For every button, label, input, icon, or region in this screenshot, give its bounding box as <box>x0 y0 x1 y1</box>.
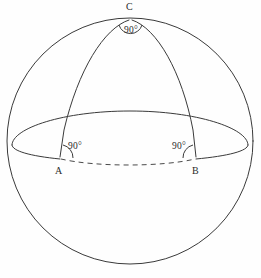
equator-front-dashed-arc-AB <box>61 159 195 165</box>
equator-back-arc <box>12 111 248 145</box>
angle-label-b: 90° <box>172 142 186 152</box>
vertex-label-a: A <box>55 166 62 176</box>
angle-label-c: 90° <box>124 26 138 36</box>
meridian-arc-CA <box>60 20 129 157</box>
spherical-triangle-figure: C A B 90° 90° 90° <box>0 0 261 278</box>
equator-front-left-segment <box>12 145 60 159</box>
equator-front-right-segment <box>196 145 248 159</box>
vertex-label-b: B <box>192 166 199 176</box>
vertex-label-c: C <box>126 2 133 12</box>
meridian-arc-CB <box>132 20 196 157</box>
angle-label-a: 90° <box>68 142 82 152</box>
sphere-outline <box>7 18 253 264</box>
sphere-drawing <box>0 0 261 278</box>
